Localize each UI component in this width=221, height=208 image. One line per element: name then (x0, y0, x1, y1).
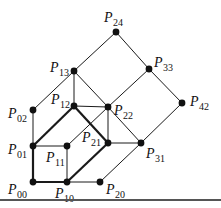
label-subscript: 21 (91, 137, 101, 148)
label-p02: P02 (7, 106, 27, 124)
label-p10: P10 (54, 186, 74, 204)
label-base: P (7, 106, 17, 121)
node-p20 (97, 179, 104, 186)
bottom-rule (0, 199, 221, 201)
node-p33 (146, 66, 153, 73)
node-p21 (105, 140, 112, 147)
node-p24 (113, 29, 120, 36)
edge-p24-p33 (116, 32, 149, 69)
edge-p12-p22 (74, 106, 108, 107)
node-p01 (30, 143, 37, 150)
node-p00 (30, 179, 37, 186)
edge-p24-p13 (74, 32, 116, 71)
label-base: P (49, 60, 59, 75)
node-p42 (179, 100, 186, 107)
label-subscript: 11 (55, 157, 65, 168)
label-base: P (145, 146, 155, 161)
label-subscript: 02 (17, 113, 27, 124)
edge-p12-p01 (33, 106, 74, 146)
label-p22: P22 (113, 103, 133, 121)
label-base: P (189, 94, 199, 109)
node-p02 (30, 107, 37, 114)
label-subscript: 33 (163, 62, 173, 73)
node-p12 (71, 103, 78, 110)
label-p00: P00 (7, 182, 27, 200)
label-base: P (7, 182, 17, 197)
label-base: P (105, 182, 115, 197)
edge-p21-p10 (67, 143, 108, 182)
label-base: P (7, 142, 17, 157)
label-p01: P01 (7, 142, 27, 160)
label-base: P (113, 103, 123, 118)
label-subscript: 13 (59, 67, 69, 78)
node-p22 (105, 104, 112, 111)
label-subscript: 24 (113, 17, 123, 28)
label-subscript: 22 (123, 110, 133, 121)
label-base: P (103, 10, 113, 25)
node-p13 (71, 68, 78, 75)
lattice-diagram: P24P13P33P02P12P22P42P01P11P21P31P00P10P… (0, 0, 221, 208)
label-subscript: 12 (60, 99, 70, 110)
label-p12: P12 (50, 92, 70, 110)
label-p11: P11 (45, 150, 65, 168)
label-p20: P20 (105, 182, 125, 200)
label-p13: P13 (49, 60, 69, 78)
node-p11 (64, 143, 71, 150)
label-p42: P42 (189, 94, 209, 112)
label-p31: P31 (145, 146, 165, 164)
label-base: P (153, 55, 163, 70)
label-base: P (45, 150, 55, 165)
label-p24: P24 (103, 10, 123, 28)
label-base: P (81, 130, 91, 145)
edge-p33-p42 (149, 69, 182, 103)
edge-p33-p22 (108, 69, 149, 107)
edge-p20-p31 (100, 143, 141, 182)
edge-p42-p31 (141, 103, 182, 143)
label-subscript: 01 (17, 149, 27, 160)
label-base: P (50, 92, 60, 107)
node-p31 (138, 140, 145, 147)
label-p33: P33 (153, 55, 173, 73)
label-subscript: 42 (199, 101, 209, 112)
node-p10 (64, 179, 71, 186)
edge-p13-p22 (74, 71, 108, 107)
label-subscript: 31 (155, 153, 165, 164)
